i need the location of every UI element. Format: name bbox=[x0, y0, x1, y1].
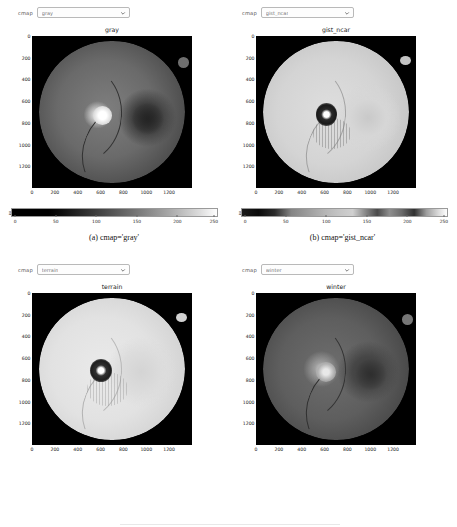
axes-title-b: gist_ncar bbox=[256, 26, 416, 33]
image-plot-c[interactable] bbox=[32, 293, 192, 445]
ytick-label: 800 bbox=[246, 120, 255, 125]
xtick-label: 400 bbox=[297, 447, 306, 452]
ytick-label: 1200 bbox=[243, 421, 255, 426]
colorbar-tick-label: 0 bbox=[244, 219, 247, 224]
ytick-label: 0 bbox=[28, 291, 31, 296]
xtick-label: 1200 bbox=[387, 447, 399, 452]
colorbar-tick-label: 0 bbox=[14, 219, 17, 224]
cmap-value-d: winter bbox=[266, 267, 282, 273]
chevron-down-icon bbox=[120, 10, 126, 16]
cmap-value-a: gray bbox=[42, 10, 53, 16]
fundus-image-b bbox=[263, 41, 409, 184]
cmap-select-b[interactable]: gist_ncar bbox=[261, 7, 354, 18]
colorbar-tick-label: 100 bbox=[92, 219, 100, 224]
cmap-select-d[interactable]: winter bbox=[261, 264, 354, 275]
xtick-label: 1000 bbox=[140, 447, 152, 452]
xtick-label: 1200 bbox=[163, 190, 175, 195]
colorbar-strip-gray[interactable] bbox=[11, 208, 218, 217]
ytick-label: 400 bbox=[22, 77, 31, 82]
xtick-label: 200 bbox=[50, 190, 59, 195]
axes-title-c: terrain bbox=[32, 283, 192, 290]
xtick-label: 400 bbox=[73, 447, 82, 452]
xtick-label: 400 bbox=[73, 190, 82, 195]
figure-grid: cmap gray gray bbox=[0, 0, 457, 527]
xtick-label: 600 bbox=[96, 447, 105, 452]
subplot-panel-a: cmap gray gray bbox=[0, 0, 228, 256]
colorbar-a: px 0 50 100 150 200 250 bbox=[11, 208, 218, 217]
xtick-label: 200 bbox=[274, 447, 283, 452]
cmap-control-c: cmap terrain bbox=[18, 264, 130, 275]
page-bottom-rule bbox=[120, 524, 340, 525]
ytick-label: 1000 bbox=[243, 142, 255, 147]
image-plot-a[interactable] bbox=[32, 36, 192, 188]
image-plot-d[interactable] bbox=[256, 293, 416, 445]
ytick-label: 1200 bbox=[19, 421, 31, 426]
ytick-label: 0 bbox=[252, 34, 255, 39]
ytick-label: 200 bbox=[22, 312, 31, 317]
xtick-label: 600 bbox=[96, 190, 105, 195]
ytick-label: 0 bbox=[252, 291, 255, 296]
cmap-select-c[interactable]: terrain bbox=[37, 264, 130, 275]
cmap-value-b: gist_ncar bbox=[266, 10, 289, 16]
ytick-label: 800 bbox=[22, 120, 31, 125]
ytick-label: 1000 bbox=[19, 142, 31, 147]
cmap-control-d: cmap winter bbox=[242, 264, 354, 275]
colorbar-tick-label: 50 bbox=[283, 219, 289, 224]
xtick-label: 0 bbox=[255, 447, 258, 452]
xtick-label: 200 bbox=[274, 190, 283, 195]
chevron-down-icon bbox=[344, 267, 350, 273]
axes-b: gist_ncar 0 200 400 600 800 1000 1200 bbox=[256, 36, 416, 188]
ytick-label: 200 bbox=[22, 55, 31, 60]
image-plot-b[interactable] bbox=[256, 36, 416, 188]
cmap-value-c: terrain bbox=[42, 267, 59, 273]
cmap-select-a[interactable]: gray bbox=[37, 7, 130, 18]
ytick-label: 1200 bbox=[243, 164, 255, 169]
cmap-label-b: cmap bbox=[242, 10, 257, 16]
ytick-label: 800 bbox=[246, 377, 255, 382]
xtick-label: 600 bbox=[320, 190, 329, 195]
xtick-label: 800 bbox=[119, 190, 128, 195]
ytick-label: 600 bbox=[246, 356, 255, 361]
colorbar-strip-gist-ncar[interactable] bbox=[241, 208, 448, 217]
colorbar-tick-label: 250 bbox=[440, 219, 448, 224]
xtick-label: 0 bbox=[31, 447, 34, 452]
subplot-panel-b: cmap gist_ncar gist_ncar bbox=[228, 0, 457, 256]
cmap-label-a: cmap bbox=[18, 10, 33, 16]
axes-title-a: gray bbox=[32, 26, 192, 33]
ytick-label: 1000 bbox=[19, 399, 31, 404]
caption-b: (b) cmap='gist_ncar' bbox=[228, 233, 457, 242]
colorbar-tick-label: 100 bbox=[322, 219, 330, 224]
colorbar-tick-label: 200 bbox=[173, 219, 181, 224]
fundus-image-d bbox=[263, 298, 409, 441]
ytick-label: 200 bbox=[246, 55, 255, 60]
caption-a: (a) cmap='gray' bbox=[0, 233, 228, 242]
xtick-label: 1000 bbox=[364, 190, 376, 195]
xtick-label: 800 bbox=[119, 447, 128, 452]
ytick-label: 0 bbox=[28, 34, 31, 39]
ytick-label: 200 bbox=[246, 312, 255, 317]
xtick-label: 600 bbox=[320, 447, 329, 452]
colorbar-tick-label: 50 bbox=[53, 219, 59, 224]
axes-a: gray 0 200 400 600 800 1000 1200 bbox=[32, 36, 192, 188]
cmap-control-b: cmap gist_ncar bbox=[242, 7, 354, 18]
cmap-label-d: cmap bbox=[242, 267, 257, 273]
xtick-label: 0 bbox=[255, 190, 258, 195]
ytick-label: 600 bbox=[22, 99, 31, 104]
xtick-label: 1200 bbox=[163, 447, 175, 452]
xtick-label: 800 bbox=[343, 447, 352, 452]
colorbar-tick-label: 250 bbox=[210, 219, 218, 224]
ytick-label: 400 bbox=[246, 77, 255, 82]
ytick-label: 600 bbox=[246, 99, 255, 104]
cmap-control-a: cmap gray bbox=[18, 7, 130, 18]
xtick-label: 1200 bbox=[387, 190, 399, 195]
axes-c: terrain 0 200 400 600 800 1000 1200 bbox=[32, 293, 192, 445]
xtick-label: 1000 bbox=[364, 447, 376, 452]
xtick-label: 400 bbox=[297, 190, 306, 195]
ytick-label: 1200 bbox=[19, 164, 31, 169]
cmap-label-c: cmap bbox=[18, 267, 33, 273]
xtick-label: 1000 bbox=[140, 190, 152, 195]
ytick-label: 1000 bbox=[243, 399, 255, 404]
axes-title-d: winter bbox=[256, 283, 416, 290]
colorbar-b: px 0 50 100 150 200 250 bbox=[241, 208, 448, 217]
colorbar-tick-label: 200 bbox=[403, 219, 411, 224]
